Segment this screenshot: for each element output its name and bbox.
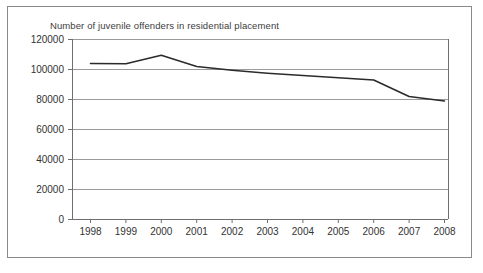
data-series-line [91, 55, 445, 101]
chart-figure-frame: Number of juvenile offenders in resident… [7, 6, 472, 258]
xtick-label-2003: 2003 [256, 226, 279, 237]
ytick-label-40000: 40000 [36, 154, 64, 165]
y-gridlines [72, 40, 448, 190]
xtick-label-1998: 1998 [79, 226, 102, 237]
ytick-label-0: 0 [58, 214, 64, 225]
ytick-label-20000: 20000 [36, 184, 64, 195]
xtick-label-2000: 2000 [150, 226, 173, 237]
ytick-label-80000: 80000 [36, 94, 64, 105]
line-chart-plot: 120000 100000 80000 60000 40000 20000 0 … [8, 7, 473, 259]
ytick-label-100000: 100000 [31, 64, 65, 75]
xtick-label-2005: 2005 [327, 226, 350, 237]
xtick-label-2001: 2001 [186, 226, 209, 237]
y-axis-tick-labels: 120000 100000 80000 60000 40000 20000 0 [31, 34, 65, 225]
y-tickmarks [68, 40, 72, 220]
xtick-label-2004: 2004 [292, 226, 315, 237]
xtick-label-2002: 2002 [221, 226, 244, 237]
xtick-label-2006: 2006 [363, 226, 386, 237]
xtick-label-1999: 1999 [115, 226, 138, 237]
ytick-label-120000: 120000 [31, 34, 65, 45]
ytick-label-60000: 60000 [36, 124, 64, 135]
x-axis-tick-labels: 1998 1999 2000 2001 2002 2003 2004 2005 … [79, 226, 456, 237]
xtick-label-2008: 2008 [433, 226, 456, 237]
xtick-label-2007: 2007 [398, 226, 421, 237]
